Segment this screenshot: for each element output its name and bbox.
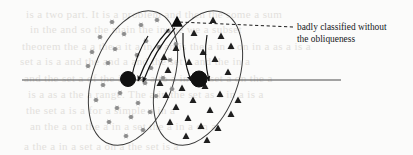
cluster-left-point-1: [138, 23, 143, 28]
cluster-ellipse-layer: [71, 0, 259, 155]
cluster-right-point-15: [235, 97, 242, 103]
annotation-text-line-2: the obliqueness: [297, 34, 355, 44]
annotation-text-line-1: badly classified without: [297, 22, 387, 32]
cluster-right-point-18: [185, 115, 192, 121]
cluster-right-point-21: [198, 123, 205, 129]
cluster-right-point-16: [173, 104, 180, 110]
cluster-left-point-17: [117, 91, 122, 96]
cluster-left-point-20: [93, 98, 98, 103]
cluster-left-point-8: [112, 47, 117, 52]
cluster-right-point-19: [228, 111, 235, 117]
cluster-right-point-10: [179, 85, 186, 91]
cluster-left-point-22: [135, 101, 140, 106]
cluster-right-point-14: [190, 97, 197, 103]
cluster-left-centroid: [121, 72, 136, 87]
oblique-classification-figure: is a two part. It is a problem and then …: [0, 0, 413, 155]
cluster-right-point-2: [218, 33, 225, 39]
cluster-right-point-20: [167, 119, 174, 125]
arrow-to-right-centroid-a: [183, 33, 191, 81]
cluster-right-point-13: [163, 92, 170, 98]
cluster-left-point-4: [121, 32, 126, 37]
cluster-right-point-9: [225, 69, 232, 75]
cluster-left-point-21: [114, 106, 119, 111]
cluster-left-point-16: [100, 83, 105, 88]
cluster-right-point-0: [210, 17, 217, 23]
arrow-to-right-centroid-b: [206, 35, 209, 81]
cluster-right-point-26: [161, 54, 168, 60]
diagram-canvas: badly classified without the obliqueness: [0, 0, 413, 155]
cluster-right-point-1: [191, 30, 198, 36]
cluster-left-point-25: [128, 115, 133, 120]
cluster-left-point-29: [169, 87, 174, 92]
cluster-right-point-3: [228, 43, 235, 49]
cluster-right-point-4: [173, 45, 180, 51]
cluster-left-point-3: [97, 35, 102, 40]
cluster-right-point-22: [215, 125, 222, 131]
cluster-right-point-7: [212, 56, 219, 62]
cluster-right-point-24: [204, 137, 211, 143]
cluster-left-point-0: [109, 20, 114, 25]
cluster-right-point-12: [217, 91, 224, 97]
cluster-right-point-8: [165, 67, 172, 73]
cluster-left-point-23: [153, 94, 158, 99]
cluster-left-point-28: [140, 128, 145, 133]
cluster-left-point-12: [85, 64, 90, 69]
cluster-right-point-17: [207, 107, 214, 113]
cluster-left-point-15: [167, 58, 172, 63]
cluster-left-point-27: [123, 134, 128, 139]
cluster-left-point-7: [89, 50, 94, 55]
cluster-right-centroid: [191, 71, 207, 87]
cluster-left-point-13: [105, 61, 110, 66]
cluster-right-point-6: [186, 59, 193, 65]
cluster-right-point-23: [183, 133, 190, 139]
cluster-left-point-24: [106, 120, 111, 125]
cluster-left-point-26: [147, 110, 152, 115]
cluster-left-point-2: [154, 18, 159, 23]
